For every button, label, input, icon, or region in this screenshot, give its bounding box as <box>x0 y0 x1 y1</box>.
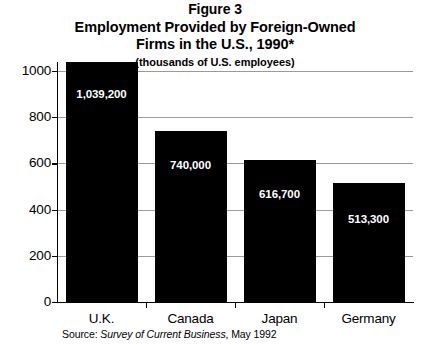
y-axis-label-800: 800 <box>5 110 51 124</box>
y-tick-0 <box>52 302 58 303</box>
x-axis-label-germany: Germany <box>324 311 413 326</box>
chart-title-line-3: Firms in the U.S., 1990* <box>0 36 430 54</box>
figure-number: Figure 3 <box>0 1 430 19</box>
x-axis-label-canada: Canada <box>146 311 235 326</box>
x-axis-label-japan: Japan <box>235 311 324 326</box>
source-note: Source: Survey of Current Business, May … <box>62 328 277 340</box>
chart-title-block: Figure 3 Employment Provided by Foreign-… <box>0 1 430 70</box>
y-axis-label-1000: 1000 <box>5 64 51 78</box>
y-tick-200 <box>52 256 58 257</box>
x-tick-3 <box>324 302 325 308</box>
y-axis-label-600: 600 <box>5 156 51 170</box>
source-publication: Survey of Current Business <box>100 328 225 340</box>
plot-area: 1,039,200740,000616,700513,300 <box>57 71 413 302</box>
y-tick-800 <box>52 117 58 118</box>
y-axis-line <box>57 62 58 302</box>
bar-japan <box>244 160 316 302</box>
x-axis-label-uk: U.K. <box>57 311 146 326</box>
chart-subtitle: (thousands of U.S. employees) <box>0 55 430 70</box>
source-suffix: , May 1992 <box>226 328 277 340</box>
figure-3-chart: Figure 3 Employment Provided by Foreign-… <box>0 0 430 345</box>
y-axis-label-0: 0 <box>5 295 51 309</box>
source-prefix: Source: <box>62 328 98 340</box>
y-tick-400 <box>52 210 58 211</box>
chart-title-line-2: Employment Provided by Foreign-Owned <box>0 19 430 37</box>
y-axis-label-400: 400 <box>5 203 51 217</box>
bar-value-label-uk: 1,039,200 <box>66 88 138 100</box>
y-tick-600 <box>52 163 58 164</box>
bar-value-label-japan: 616,700 <box>244 188 316 200</box>
x-tick-1 <box>146 302 147 308</box>
bar-germany <box>333 183 405 302</box>
y-tick-1000 <box>52 71 58 72</box>
bar-value-label-germany: 513,300 <box>333 213 405 225</box>
bar-canada <box>155 131 227 302</box>
bar-value-label-canada: 740,000 <box>155 159 227 171</box>
x-tick-2 <box>235 302 236 308</box>
y-axis-label-200: 200 <box>5 249 51 263</box>
